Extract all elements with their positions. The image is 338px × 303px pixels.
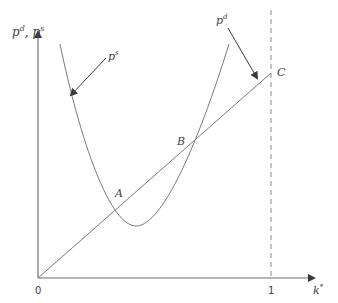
point-b-label: B [176,135,185,148]
straight-line-curve [38,73,271,278]
supply-curve-label: ps [108,49,119,63]
u-shaped-curve [60,44,229,226]
supply-label-arrow [71,58,106,95]
demand-curve-label: pd [216,13,228,27]
diagram-canvas: pd, ps ps pd A B C 0 1 k* [0,0,338,303]
point-c-label: C [277,66,286,79]
x-tick-one-label: 1 [268,285,274,296]
origin-label: 0 [35,285,41,296]
y-axis-label: pd, ps [12,24,44,39]
point-a-label: A [114,187,123,200]
demand-label-arrow [228,28,257,78]
x-axis-label: k* [313,283,324,297]
